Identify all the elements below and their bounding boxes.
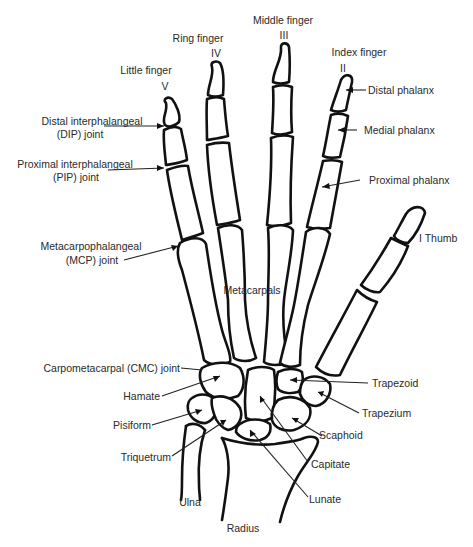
- label-index-finger: Index finger: [332, 46, 387, 58]
- label-dip-joint-line2: (DIP) joint: [57, 128, 104, 140]
- little-finger-bones: [164, 98, 203, 240]
- label-scaphoid: Scaphoid: [319, 429, 363, 441]
- index-finger-bones: [307, 75, 352, 228]
- label-radius: Radius: [227, 522, 260, 534]
- middle-finger-bones: [267, 43, 293, 226]
- label-trapezium: Trapezium: [362, 407, 411, 419]
- label-middle-finger: Middle finger: [253, 14, 313, 26]
- label-pip-joint-line1: Proximal interphalangeal: [17, 158, 133, 170]
- label-ring-finger: Ring finger: [173, 32, 224, 44]
- label-mcp-joint-line2: (MCP) joint: [66, 254, 119, 266]
- label-medial-phalanx: Medial phalanx: [364, 124, 435, 136]
- label-distal-phalanx: Distal phalanx: [368, 84, 434, 96]
- label-proximal-phalanx: Proximal phalanx: [369, 174, 450, 186]
- label-pisiform: Pisiform: [113, 419, 151, 431]
- label-dip-joint-line1: Distal interphalangeal: [42, 115, 143, 127]
- ring-finger-bones: [207, 62, 240, 225]
- label-hamate: Hamate: [123, 390, 160, 402]
- label-lunate: Lunate: [309, 493, 341, 505]
- label-little-finger: Little finger: [120, 64, 171, 76]
- label-thumb: I Thumb: [419, 232, 457, 244]
- carpal-bones: [188, 363, 331, 441]
- label-mcp-joint-line1: Metacarpophalangeal: [41, 240, 142, 252]
- label-capitate: Capitate: [311, 458, 350, 470]
- label-index-finger-numeral: II: [340, 62, 346, 74]
- label-triquetrum: Triquetrum: [121, 451, 171, 463]
- label-pip-joint-line2: (PIP) joint: [53, 171, 99, 183]
- label-metacarpals: Metacarpals: [223, 284, 280, 296]
- label-ulna: Ulna: [179, 496, 201, 508]
- thumb-bones: [316, 207, 425, 375]
- label-little-finger-numeral: V: [161, 80, 168, 92]
- label-middle-finger-numeral: III: [280, 29, 289, 41]
- label-cmc-joint: Carpometacarpal (CMC) joint: [43, 362, 180, 374]
- hand-bones-drawing: [0, 0, 473, 547]
- label-trapezoid: Trapezoid: [372, 377, 418, 389]
- label-ring-finger-numeral: IV: [211, 47, 221, 59]
- hand-skeleton-diagram: Ring finger IV Middle finger III Little …: [0, 0, 473, 547]
